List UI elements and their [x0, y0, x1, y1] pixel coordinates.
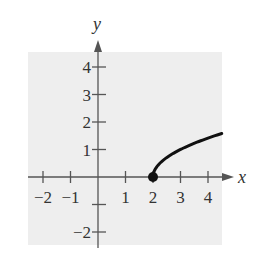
y-tick-label: 1	[83, 141, 92, 160]
y-axis-arrow-icon	[94, 40, 102, 52]
x-tick-label: 2	[149, 188, 158, 207]
x-tick-label: 3	[176, 188, 185, 207]
x-axis-arrow-icon	[222, 173, 234, 181]
y-tick-label: 2	[83, 113, 92, 132]
x-tick-label: −2	[34, 188, 52, 207]
function-graph: −2−112344321−2 x y	[0, 0, 264, 257]
x-tick-label: −1	[61, 188, 79, 207]
plot-background	[28, 52, 222, 245]
endpoint-dot	[148, 172, 158, 182]
x-tick-label: 1	[121, 188, 130, 207]
y-axis-label: y	[91, 14, 101, 34]
y-tick-label: 4	[83, 58, 92, 77]
x-tick-label: 4	[204, 188, 213, 207]
y-tick-label: −2	[73, 223, 91, 242]
y-tick-label: 3	[83, 86, 92, 105]
x-axis-label: x	[237, 167, 246, 187]
